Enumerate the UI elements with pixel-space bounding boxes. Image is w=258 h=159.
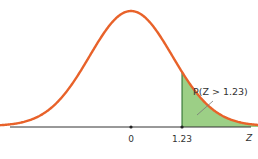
- axis-ticks: 01.23: [128, 125, 192, 144]
- tick-mark: [129, 125, 132, 128]
- shaded-tail-area: [182, 72, 258, 127]
- z-axis-label: Z: [245, 133, 253, 143]
- tick-label: 1.23: [172, 134, 192, 144]
- normal-curve: [0, 11, 258, 126]
- tick-label: 0: [128, 134, 134, 144]
- tick-mark: [180, 125, 183, 128]
- normal-distribution-chart: 01.23 Z P(Z > 1.23): [0, 0, 258, 159]
- probability-annotation: P(Z > 1.23): [193, 86, 248, 97]
